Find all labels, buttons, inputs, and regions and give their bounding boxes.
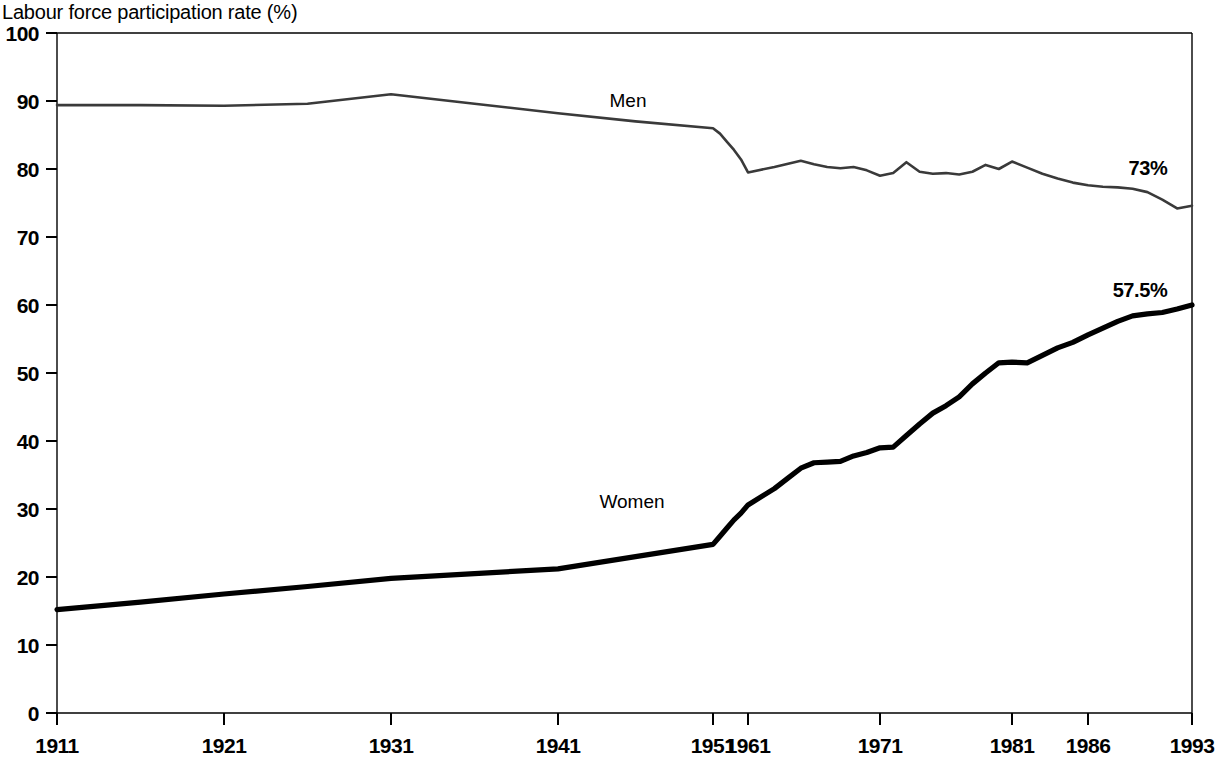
chart-plot-area: 0102030405060708090100 19111921193119411… xyxy=(0,0,1216,763)
x-tick-label: 1986 xyxy=(1066,734,1111,757)
endpoint-label-women: 57.5% xyxy=(1113,279,1168,301)
y-tick-label: 20 xyxy=(17,566,39,589)
y-tick-label: 0 xyxy=(28,702,39,725)
series-line-men xyxy=(57,94,1192,208)
y-tick-label: 80 xyxy=(17,158,39,181)
y-tick-label: 100 xyxy=(5,22,39,45)
series-label-women: Women xyxy=(599,491,664,512)
x-tick-label: 1921 xyxy=(202,734,248,757)
x-tick-label: 1961 xyxy=(726,734,772,757)
y-tick-label: 70 xyxy=(17,226,39,249)
x-tick-label: 1993 xyxy=(1170,734,1215,757)
y-axis-ticks: 0102030405060708090100 xyxy=(5,22,57,725)
series-line-women xyxy=(57,305,1192,610)
y-tick-label: 90 xyxy=(17,90,39,113)
x-tick-label: 1981 xyxy=(990,734,1036,757)
series-label-men: Men xyxy=(610,90,647,111)
y-tick-label: 30 xyxy=(17,498,39,521)
data-series-group xyxy=(57,94,1192,609)
x-tick-label: 1971 xyxy=(858,734,904,757)
x-tick-label: 1911 xyxy=(35,734,79,757)
y-tick-label: 50 xyxy=(17,362,39,385)
y-tick-label: 10 xyxy=(17,634,39,657)
y-tick-label: 40 xyxy=(17,430,39,453)
y-tick-label: 60 xyxy=(17,294,39,317)
x-axis-ticks: 1911192119311941195119611971198119861993 xyxy=(35,713,1214,757)
endpoint-label-men: 73% xyxy=(1129,157,1168,179)
chart-container: Labour force participation rate (%) 0102… xyxy=(0,0,1216,763)
x-tick-label: 1931 xyxy=(369,734,415,757)
x-tick-label: 1941 xyxy=(536,734,582,757)
plot-frame xyxy=(57,33,1192,713)
